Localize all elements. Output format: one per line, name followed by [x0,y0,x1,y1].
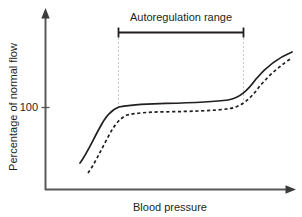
autoregulation-range-label: Autoregulation range [130,11,232,23]
chart-svg: 100 Autoregulation range Percentage of n… [0,0,302,217]
y-axis-title: Percentage of normal flow [7,43,19,171]
autoregulation-chart-figure: 100 Autoregulation range Percentage of n… [0,0,302,217]
y-tick-100-label: 100 [20,101,38,113]
x-axis-title: Blood pressure [133,201,207,213]
